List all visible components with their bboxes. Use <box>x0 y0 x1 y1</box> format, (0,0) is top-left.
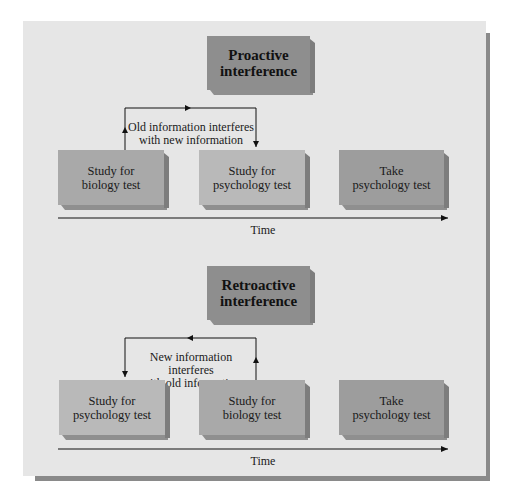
proactive-connector-label: Old information interferes with new info… <box>128 121 254 147</box>
proactive-title-line2: interference <box>220 63 297 79</box>
proactive-step-study-biology: Study for biology test <box>58 150 164 205</box>
proactive-title-box: Proactive interference <box>207 36 310 90</box>
retroactive-step-take-psychology-test: Take psychology test <box>339 380 444 435</box>
retroactive-step-study-biology: Study for biology test <box>199 380 305 435</box>
retroactive-time-label: Time <box>233 455 293 468</box>
retroactive-title-line2: interference <box>220 293 297 309</box>
proactive-step-study-psychology: Study for psychology test <box>199 150 305 205</box>
proactive-title-line1: Proactive <box>220 47 297 63</box>
proactive-time-label: Time <box>233 224 293 237</box>
retroactive-title-box: Retroactive interference <box>207 266 310 320</box>
retroactive-title-line1: Retroactive <box>220 277 297 293</box>
retroactive-step-study-psychology: Study for psychology test <box>59 380 165 435</box>
proactive-step-take-psychology-test: Take psychology test <box>339 150 444 205</box>
